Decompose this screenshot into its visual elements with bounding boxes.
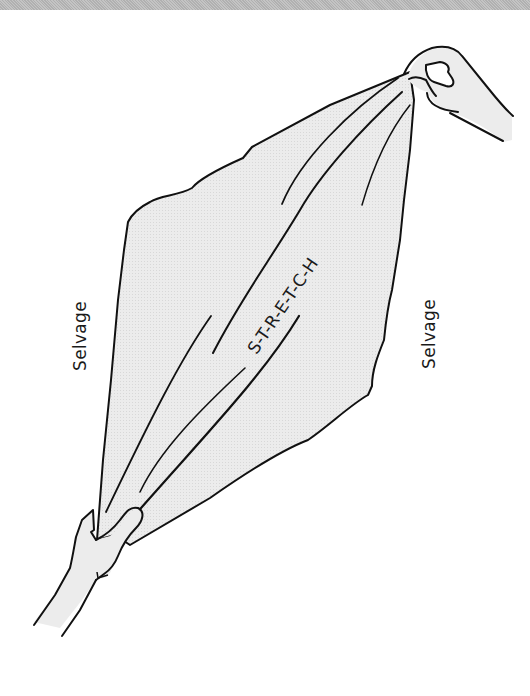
selvage-left-label: Selvage: [72, 301, 89, 371]
bottom-left-hand: [34, 508, 142, 636]
selvage-right-label: Selvage: [421, 299, 438, 369]
fabric-piece: [97, 72, 414, 545]
top-right-hand: [404, 47, 513, 142]
